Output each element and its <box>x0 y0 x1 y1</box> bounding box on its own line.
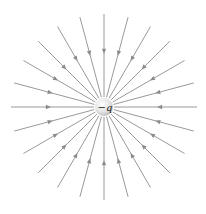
field-line <box>80 17 101 97</box>
field-line <box>111 41 170 100</box>
field-line <box>38 114 97 173</box>
field-line <box>113 112 185 154</box>
field-line <box>58 116 100 188</box>
field-line <box>107 17 128 97</box>
charge-label: −q <box>98 102 113 113</box>
field-line <box>38 41 97 100</box>
arrow-icon <box>102 160 106 165</box>
arrow-icon <box>102 49 106 54</box>
field-line <box>114 110 194 131</box>
field-line <box>58 26 100 98</box>
field-line <box>107 117 128 197</box>
field-line <box>23 61 95 103</box>
field-line <box>111 114 170 173</box>
field-line <box>14 110 94 131</box>
field-line <box>80 117 101 197</box>
field-line <box>114 83 194 104</box>
field-line <box>109 116 151 188</box>
field-line <box>113 61 185 103</box>
field-line-diagram: −q <box>0 0 206 214</box>
field-line <box>14 83 94 104</box>
arrow-icon <box>46 105 51 109</box>
field-line <box>23 112 95 154</box>
field-line <box>109 26 151 98</box>
arrow-icon <box>157 105 162 109</box>
